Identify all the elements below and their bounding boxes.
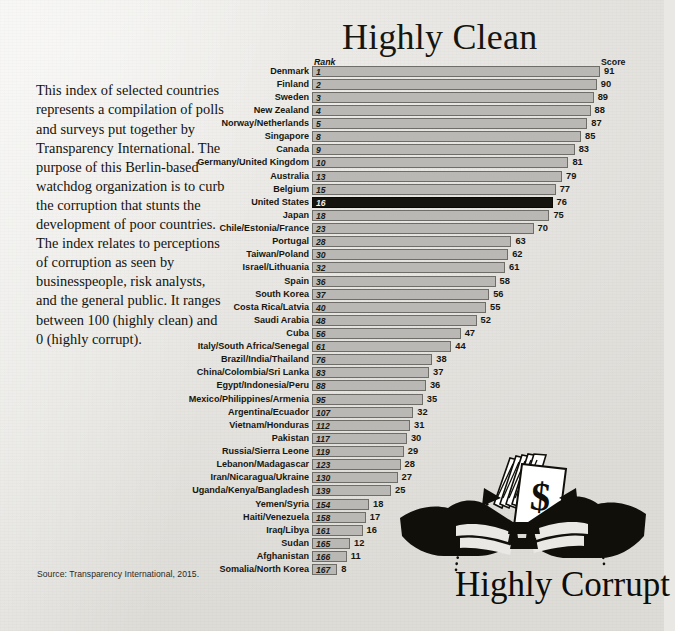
row-score-value: 90 <box>601 78 611 91</box>
row-rank-value: 117 <box>316 434 330 444</box>
row-rank-value: 61 <box>316 342 326 352</box>
row-label-wrap: Somalia/North Korea <box>6 563 309 576</box>
row-score-value: 63 <box>515 235 525 248</box>
row-score-value: 58 <box>500 275 510 288</box>
row-country-label: Sweden <box>9 91 309 104</box>
row-country-label: Portugal <box>9 235 309 248</box>
row-score-value: 30 <box>411 432 421 445</box>
row-label-wrap: Singapore <box>6 130 309 143</box>
row-score-bar: 61 <box>312 341 451 352</box>
row-rank-value: 154 <box>316 500 330 510</box>
row-score-bar: 3 <box>312 92 594 103</box>
row-rank-value: 5 <box>316 119 321 129</box>
row-label-wrap: Sudan <box>6 537 309 550</box>
row-country-label: Israel/Lithuania <box>9 261 309 274</box>
row-label-wrap: New Zealand <box>6 104 309 117</box>
row-label-wrap: Vietnam/Honduras <box>6 419 309 432</box>
row-score-bar: 76 <box>312 354 432 365</box>
row-country-label: Iran/Nicaragua/Ukraine <box>9 471 309 484</box>
row-country-label: Afghanistan <box>9 550 309 563</box>
row-score-bar: 130 <box>312 472 398 483</box>
row-label-wrap: Saudi Arabia <box>6 314 309 327</box>
row-score-value: 12 <box>354 537 364 550</box>
row-country-label: Japan <box>9 209 309 222</box>
row-label-wrap: Russia/Sierra Leone <box>6 445 309 458</box>
row-score-value: 32 <box>417 406 427 419</box>
row-score-value: 36 <box>430 379 440 392</box>
row-country-label: Belgium <box>9 183 309 196</box>
row-country-label: Iraq/Libya <box>9 524 309 537</box>
row-country-label: Saudi Arabia <box>9 314 309 327</box>
row-score-bar: 119 <box>312 446 404 457</box>
row-rank-value: 119 <box>316 447 330 457</box>
row-score-bar: 167 <box>312 564 337 575</box>
row-score-value: 75 <box>553 209 563 222</box>
row-rank-value: 56 <box>316 329 326 339</box>
hand-silhouette-left <box>400 501 518 556</box>
row-score-bar: 37 <box>312 289 489 300</box>
row-label-wrap: Italy/South Africa/Senegal <box>6 340 309 353</box>
row-score-value: 81 <box>572 156 582 169</box>
row-country-label: Mexico/Philippines/Armenia <box>9 393 309 406</box>
row-rank-value: 166 <box>316 552 330 562</box>
row-country-label: New Zealand <box>9 104 309 117</box>
row-label-wrap: Egypt/Indonesia/Peru <box>6 379 309 392</box>
row-score-bar: 18 <box>312 210 549 221</box>
row-score-bar: 166 <box>312 551 347 562</box>
row-country-label: Vietnam/Honduras <box>9 419 309 432</box>
row-score-bar: 48 <box>312 315 477 326</box>
row-score-value: 38 <box>436 353 446 366</box>
row-rank-value: 1 <box>316 67 321 77</box>
row-label-wrap: Lebanon/Madagascar <box>6 458 309 471</box>
row-rank-value: 167 <box>316 565 330 575</box>
row-label-wrap: Portugal <box>6 235 309 248</box>
row-rank-value: 139 <box>316 486 330 496</box>
row-score-bar: 36 <box>312 276 496 287</box>
row-label-wrap: Norway/Netherlands <box>6 117 309 130</box>
row-country-label: Russia/Sierra Leone <box>9 445 309 458</box>
row-country-label: Finland <box>9 78 309 91</box>
row-label-wrap: Brazil/India/Thailand <box>6 353 309 366</box>
row-score-value: 35 <box>427 393 437 406</box>
row-label-wrap: Iraq/Libya <box>6 524 309 537</box>
row-rank-value: 37 <box>316 290 326 300</box>
row-score-bar: 56 <box>312 328 461 339</box>
row-score-bar: 16 <box>312 197 553 208</box>
row-score-bar: 9 <box>312 144 575 155</box>
row-label-wrap: South Korea <box>6 288 309 301</box>
row-score-bar: 112 <box>312 420 410 431</box>
row-rank-value: 23 <box>316 224 326 234</box>
row-score-value: 17 <box>370 511 380 524</box>
row-rank-value: 30 <box>316 250 326 260</box>
row-score-bar: 88 <box>312 380 426 391</box>
row-country-label: Uganda/Kenya/Bangladesh <box>9 484 309 497</box>
row-rank-value: 161 <box>316 526 330 536</box>
row-score-value: 61 <box>509 261 519 274</box>
row-label-wrap: Haiti/Venezuela <box>6 511 309 524</box>
row-label-wrap: Belgium <box>6 183 309 196</box>
row-label-wrap: Germany/United Kingdom <box>6 156 309 169</box>
row-score-bar: 23 <box>312 223 534 234</box>
row-score-bar: 30 <box>312 249 508 260</box>
row-rank-value: 3 <box>316 93 321 103</box>
row-rank-value: 18 <box>316 211 326 221</box>
row-country-label: South Korea <box>9 288 309 301</box>
row-score-value: 77 <box>560 183 570 196</box>
row-rank-value: 165 <box>316 539 330 549</box>
row-label-wrap: Costa Rica/Latvia <box>6 301 309 314</box>
row-label-wrap: Spain <box>6 275 309 288</box>
row-country-label: Norway/Netherlands <box>9 117 309 130</box>
row-score-bar: 158 <box>312 512 366 523</box>
row-score-bar: 161 <box>312 525 363 536</box>
row-label-wrap: Chile/Estonia/France <box>6 222 309 235</box>
row-country-label: Lebanon/Madagascar <box>9 458 309 471</box>
row-score-bar: 32 <box>312 262 505 273</box>
row-country-label: Singapore <box>9 130 309 143</box>
row-score-bar: 1 <box>312 66 600 77</box>
row-rank-value: 2 <box>316 80 321 90</box>
row-score-value: 76 <box>557 196 567 209</box>
row-rank-value: 95 <box>316 395 326 405</box>
row-country-label: Denmark <box>9 65 309 78</box>
row-score-value: 87 <box>591 117 601 130</box>
row-country-label: Yemen/Syria <box>9 498 309 511</box>
